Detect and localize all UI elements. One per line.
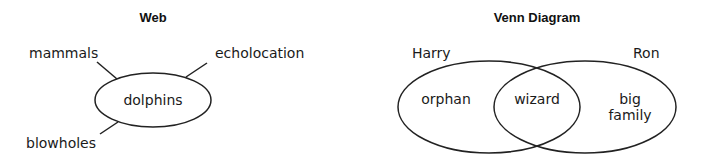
venn-right-only-label-line1: big (619, 91, 641, 107)
venn-right-set-label: Ron (633, 45, 660, 61)
web-connector-blowholes (100, 122, 118, 134)
diagram-canvas: Web dolphins mammals echolocation blowho… (0, 0, 705, 164)
web-branch-echolocation: echolocation (215, 45, 304, 61)
web-connector-echolocation (186, 63, 207, 77)
venn-intersection-label: wizard (514, 91, 560, 107)
web-branch-mammals: mammals (29, 45, 98, 61)
venn-left-set-label: Harry (412, 45, 451, 61)
venn-right-only-label-line2: family (608, 107, 651, 123)
web-center-label: dolphins (123, 92, 182, 108)
venn-left-only-label: orphan (421, 91, 471, 107)
venn-title: Venn Diagram (494, 10, 581, 25)
venn-left-ellipse (398, 61, 580, 153)
web-branch-blowholes: blowholes (26, 135, 96, 151)
web-connector-mammals (97, 62, 117, 79)
web-title: Web (139, 10, 166, 25)
